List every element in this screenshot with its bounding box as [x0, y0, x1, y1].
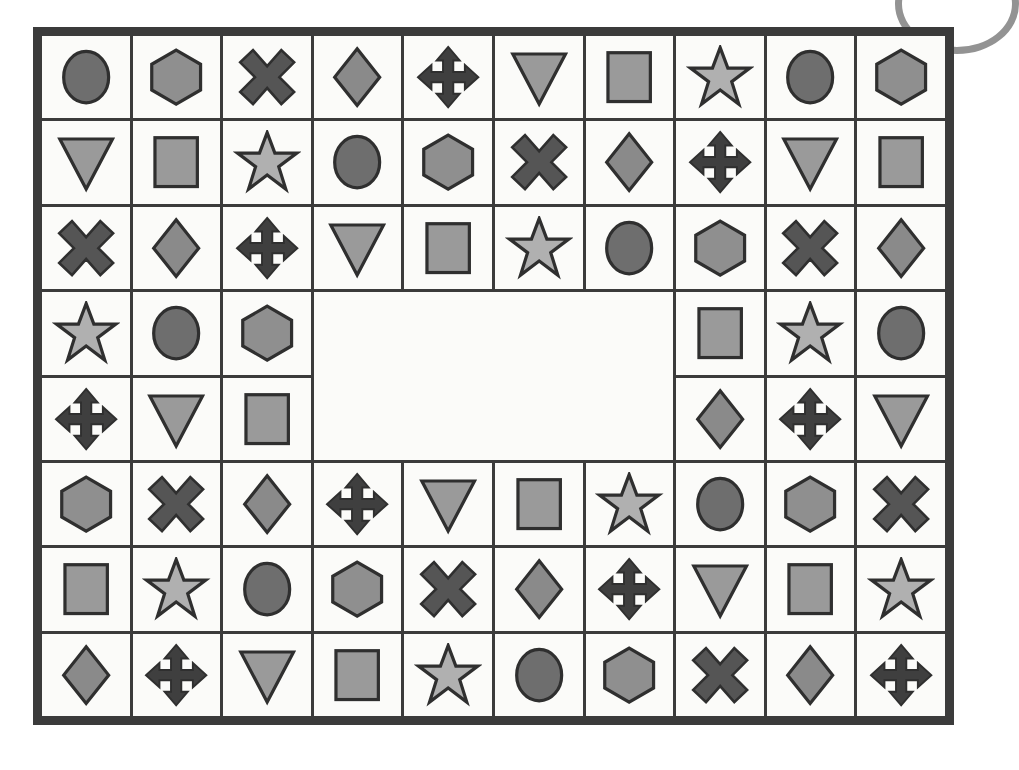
- hexagon-icon: [676, 207, 764, 289]
- diamond-icon: [223, 463, 311, 545]
- grid-cell-cross[interactable]: [857, 463, 945, 545]
- grid-cell-circle[interactable]: [767, 36, 855, 118]
- arrows-icon: [42, 378, 130, 460]
- shape-grid: [42, 36, 945, 716]
- hexagon-icon: [586, 634, 674, 716]
- hexagon-icon: [857, 36, 945, 118]
- grid-cell-circle[interactable]: [223, 548, 311, 630]
- square-icon: [133, 121, 221, 203]
- grid-cell-square[interactable]: [314, 634, 402, 716]
- grid-cell-diamond[interactable]: [42, 634, 130, 716]
- square-icon: [314, 634, 402, 716]
- grid-cell-cross[interactable]: [223, 36, 311, 118]
- grid-cell-arrows[interactable]: [857, 634, 945, 716]
- grid-cell-triangle[interactable]: [42, 121, 130, 203]
- hexagon-icon: [314, 548, 402, 630]
- grid-cell-cross[interactable]: [495, 121, 583, 203]
- star-icon: [767, 292, 855, 374]
- grid-cell-arrows[interactable]: [767, 378, 855, 460]
- grid-cell-triangle[interactable]: [857, 378, 945, 460]
- grid-cell-star[interactable]: [857, 548, 945, 630]
- grid-cell-triangle[interactable]: [767, 121, 855, 203]
- grid-cell-hexagon[interactable]: [676, 207, 764, 289]
- square-icon: [42, 548, 130, 630]
- grid-cell-square[interactable]: [42, 548, 130, 630]
- grid-cell-arrows[interactable]: [42, 378, 130, 460]
- grid-cell-hexagon[interactable]: [314, 548, 402, 630]
- grid-cell-diamond[interactable]: [223, 463, 311, 545]
- grid-cell-diamond[interactable]: [586, 121, 674, 203]
- grid-cell-star[interactable]: [495, 207, 583, 289]
- grid-cell-circle[interactable]: [133, 292, 221, 374]
- cross-icon: [857, 463, 945, 545]
- grid-cell-cross[interactable]: [767, 207, 855, 289]
- grid-cell-square[interactable]: [404, 207, 492, 289]
- grid-cell-star[interactable]: [42, 292, 130, 374]
- grid-cell-circle[interactable]: [314, 121, 402, 203]
- grid-cell-cross[interactable]: [404, 548, 492, 630]
- grid-cell-arrows[interactable]: [404, 36, 492, 118]
- grid-cell-square[interactable]: [676, 292, 764, 374]
- grid-cell-arrows[interactable]: [133, 634, 221, 716]
- grid-cell-square[interactable]: [586, 36, 674, 118]
- star-icon: [586, 463, 674, 545]
- grid-cell-arrows[interactable]: [676, 121, 764, 203]
- grid-cell-hexagon[interactable]: [42, 463, 130, 545]
- diamond-icon: [767, 634, 855, 716]
- arrows-icon: [404, 36, 492, 118]
- circle-icon: [495, 634, 583, 716]
- grid-cell-triangle[interactable]: [676, 548, 764, 630]
- star-icon: [133, 548, 221, 630]
- grid-cell-circle[interactable]: [857, 292, 945, 374]
- star-icon: [676, 36, 764, 118]
- grid-cell-circle[interactable]: [495, 634, 583, 716]
- grid-cell-star[interactable]: [133, 548, 221, 630]
- arrows-icon: [314, 463, 402, 545]
- square-icon: [404, 207, 492, 289]
- grid-cell-arrows[interactable]: [586, 548, 674, 630]
- grid-cell-hexagon[interactable]: [404, 121, 492, 203]
- grid-cell-circle[interactable]: [586, 207, 674, 289]
- grid-cell-cross[interactable]: [133, 463, 221, 545]
- grid-cell-circle[interactable]: [42, 36, 130, 118]
- grid-cell-circle[interactable]: [676, 463, 764, 545]
- grid-cell-diamond[interactable]: [857, 207, 945, 289]
- grid-cell-star[interactable]: [586, 463, 674, 545]
- grid-cell-triangle[interactable]: [404, 463, 492, 545]
- grid-cell-square[interactable]: [133, 121, 221, 203]
- grid-cell-diamond[interactable]: [767, 634, 855, 716]
- grid-cell-star[interactable]: [404, 634, 492, 716]
- star-icon: [495, 207, 583, 289]
- grid-cell-triangle[interactable]: [495, 36, 583, 118]
- grid-cell-square[interactable]: [767, 548, 855, 630]
- diamond-icon: [314, 36, 402, 118]
- grid-cell-arrows[interactable]: [223, 207, 311, 289]
- grid-cell-hexagon[interactable]: [223, 292, 311, 374]
- grid-cell-hexagon[interactable]: [857, 36, 945, 118]
- grid-cell-cross[interactable]: [42, 207, 130, 289]
- grid-cell-square[interactable]: [857, 121, 945, 203]
- grid-cell-square[interactable]: [495, 463, 583, 545]
- grid-cell-hexagon[interactable]: [586, 634, 674, 716]
- hexagon-icon: [223, 292, 311, 374]
- grid-cell-hexagon[interactable]: [133, 36, 221, 118]
- grid-cell-star[interactable]: [676, 36, 764, 118]
- circle-icon: [133, 292, 221, 374]
- grid-cell-diamond[interactable]: [676, 378, 764, 460]
- grid-cell-square[interactable]: [223, 378, 311, 460]
- grid-cell-cross[interactable]: [676, 634, 764, 716]
- grid-cell-arrows[interactable]: [314, 463, 402, 545]
- square-icon: [223, 378, 311, 460]
- grid-cell-star[interactable]: [223, 121, 311, 203]
- grid-cell-star[interactable]: [767, 292, 855, 374]
- grid-cell-diamond[interactable]: [314, 36, 402, 118]
- grid-cell-diamond[interactable]: [133, 207, 221, 289]
- grid-cell-diamond[interactable]: [495, 548, 583, 630]
- triangle-icon: [223, 634, 311, 716]
- grid-cell-triangle[interactable]: [133, 378, 221, 460]
- grid-cell-triangle[interactable]: [223, 634, 311, 716]
- square-icon: [767, 548, 855, 630]
- grid-cell-hexagon[interactable]: [767, 463, 855, 545]
- grid-cell-triangle[interactable]: [314, 207, 402, 289]
- cross-icon: [223, 36, 311, 118]
